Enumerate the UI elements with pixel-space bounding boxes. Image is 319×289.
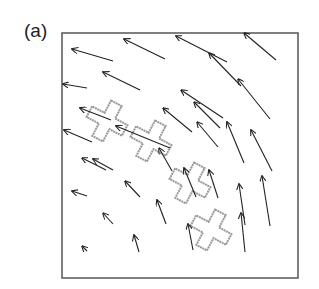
vector-arrow [176, 36, 227, 62]
vector-arrow [103, 72, 140, 90]
vector-arrow [244, 33, 276, 60]
cross-marker [184, 203, 238, 257]
vector-arrow [163, 108, 192, 132]
cross-markers [80, 94, 238, 257]
vector-arrow [184, 168, 196, 197]
plot-frame [62, 33, 298, 278]
vector-arrow [134, 235, 139, 252]
vector-arrow [209, 53, 241, 86]
vector-arrow [209, 170, 218, 198]
vector-arrow [159, 148, 172, 171]
vector-arrow [103, 213, 113, 224]
vector-arrows [63, 33, 276, 252]
vector-arrow [124, 39, 165, 59]
vector-arrow [251, 130, 272, 171]
vector-arrow [238, 79, 270, 119]
vector-arrow [72, 49, 113, 61]
vector-arrow [227, 122, 244, 163]
vector-arrow [64, 130, 92, 142]
cross-marker [124, 114, 178, 168]
vector-field-diagram [0, 0, 319, 289]
vector-arrow [125, 181, 140, 197]
vector-arrow [63, 84, 87, 88]
vector-arrow [82, 246, 87, 251]
vector-arrow [181, 90, 223, 118]
vector-arrow [262, 176, 270, 226]
vector-arrow [72, 191, 87, 196]
vector-arrow [194, 102, 220, 128]
vector-arrow [157, 200, 166, 224]
vector-arrow [197, 122, 218, 147]
